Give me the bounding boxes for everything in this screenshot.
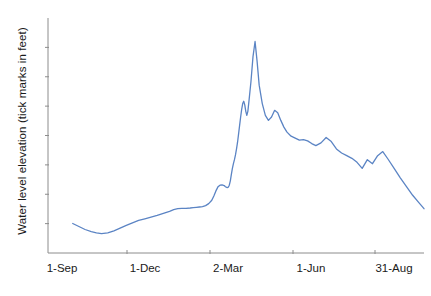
chart-plot-area	[0, 0, 431, 296]
chart-axes	[45, 18, 424, 254]
water-level-line-series	[73, 42, 424, 234]
x-tick-label-1-jun: 1-Jun	[297, 262, 326, 274]
x-axis-tick-label-group: 1-Sep 1-Dec 2-Mar 1-Jun 31-Aug	[0, 262, 431, 284]
water-level-chart: Water level elevation (tick marks in fee…	[0, 0, 431, 296]
x-tick-label-2-mar: 2-Mar	[213, 262, 243, 274]
x-tick-label-31-aug: 31-Aug	[375, 262, 412, 274]
x-tick-label-1-dec: 1-Dec	[130, 262, 161, 274]
x-tick-label-1-sep: 1-Sep	[47, 262, 78, 274]
